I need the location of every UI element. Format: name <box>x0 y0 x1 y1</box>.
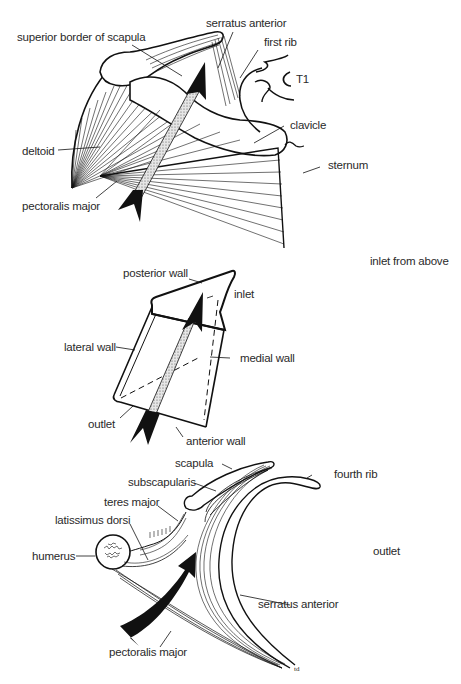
pyramid-lateral-edge <box>113 307 152 402</box>
label-inlet-from-above: inlet from above <box>370 255 449 268</box>
label-serratus-anterior-top: serratus anterior <box>206 17 286 30</box>
axilla-curved-arrow <box>120 552 196 646</box>
label-sternum: sternum <box>328 159 368 172</box>
label-teres-major: teres major <box>104 496 159 509</box>
axilla-diagram: superior border of scapula serratus ante… <box>0 0 461 684</box>
label-pectoralis-major-top: pectoralis major <box>22 200 100 213</box>
label-clavicle: clavicle <box>290 119 326 132</box>
fourth-rib <box>232 477 320 665</box>
pyramid-arrow-tail <box>130 410 160 445</box>
label-outlet-side: outlet <box>373 545 400 558</box>
label-latissimus-dorsi: latissimus dorsi <box>55 514 130 527</box>
axilla-arrow-tail <box>118 190 143 222</box>
humerus-bone <box>96 535 130 569</box>
label-medial-wall: medial wall <box>240 352 295 365</box>
label-superior-border-of-scapula: superior border of scapula <box>17 31 145 44</box>
clavicle-bone <box>130 77 287 156</box>
pyramid-anterior-edge <box>120 402 206 427</box>
label-subscapularis: subscapularis <box>128 476 196 489</box>
t1-vertebra <box>283 72 291 86</box>
label-pectoralis-major-bottom: pectoralis major <box>109 646 187 659</box>
label-fourth-rib: fourth rib <box>334 468 377 481</box>
pyramid-arrow-shaft <box>148 318 195 414</box>
label-humerus: humerus <box>32 550 75 563</box>
pyramid-medial-edge <box>206 330 224 427</box>
artist-signature: td <box>294 665 299 673</box>
label-posterior-wall: posterior wall <box>123 267 188 280</box>
cross-section-panel <box>76 462 320 668</box>
pyramid-panel <box>113 271 235 445</box>
label-serratus-anterior-bottom: serratus anterior <box>258 598 338 611</box>
label-scapula: scapula <box>175 457 213 470</box>
shoulder-panel <box>58 32 320 248</box>
label-outlet-pyramid: outlet <box>88 418 115 431</box>
label-t1: T1 <box>296 73 309 86</box>
label-inlet: inlet <box>234 288 254 301</box>
label-lateral-wall: lateral wall <box>64 341 116 354</box>
sternum-edge <box>285 142 304 147</box>
label-deltoid: deltoid <box>22 145 55 158</box>
label-anterior-wall: anterior wall <box>186 435 245 448</box>
label-first-rib: first rib <box>264 36 297 49</box>
